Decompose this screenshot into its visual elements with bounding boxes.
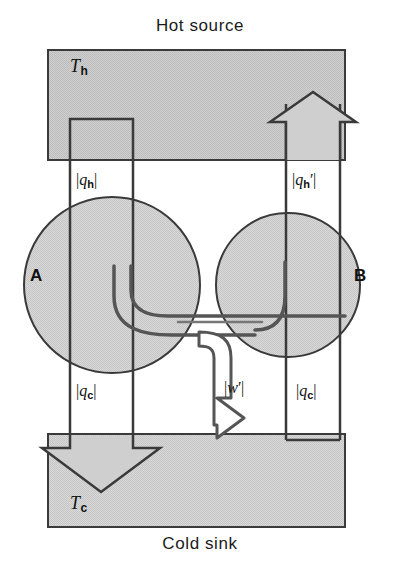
qc-subscript: c (87, 389, 93, 401)
qh-subscript: h (87, 178, 94, 190)
cold-sink-caption: Cold sink (0, 534, 400, 554)
engine-a-circle (24, 197, 200, 373)
w-prime-mark: ′ (238, 379, 241, 396)
diagram-canvas (0, 0, 400, 570)
qcp-subscript: c (307, 389, 313, 401)
heat-qh-prime-label: |qh′| (292, 171, 316, 190)
work-label: |w′| (224, 379, 244, 397)
qhp-prime-mark: ′ (310, 171, 313, 188)
qcp-symbol: q (299, 382, 307, 399)
engine-b-label: B (354, 266, 366, 286)
heat-qh-label: |qh| (76, 171, 97, 190)
hot-temperature-symbol: T (70, 56, 80, 76)
cold-temperature-label: Tc (70, 493, 87, 515)
thermodynamic-cycle-diagram: Hot source Cold sink Th Tc A B |qh| |qh′… (0, 0, 400, 570)
qhp-subscript: h (303, 178, 310, 190)
hot-source-caption: Hot source (0, 16, 400, 36)
qc-symbol: q (79, 382, 87, 399)
w-symbol: w (227, 379, 238, 396)
qhp-symbol: q (295, 171, 303, 188)
cold-temperature-symbol: T (70, 493, 80, 513)
hot-temperature-subscript: h (81, 64, 88, 78)
heat-qc-right-label: |qc| (296, 382, 317, 401)
engine-a-label: A (30, 266, 42, 286)
hot-temperature-label: Th (70, 56, 88, 78)
heat-qc-left-label: |qc| (76, 382, 97, 401)
qh-symbol: q (79, 171, 87, 188)
cold-temperature-subscript: c (81, 501, 88, 515)
